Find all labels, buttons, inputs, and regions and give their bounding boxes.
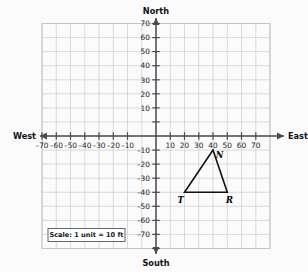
y-tick-label: 70 <box>141 19 151 28</box>
x-axis-negative-tick-labels: –70 –60 –50 –40 –30 –20 –10 <box>35 141 134 150</box>
x-tick-label: –10 <box>121 141 134 150</box>
y-tick-label: 60 <box>141 33 151 42</box>
y-tick-label: –40 <box>137 188 150 197</box>
y-tick-label: 20 <box>141 90 151 99</box>
y-tick-label: 30 <box>141 76 151 85</box>
y-tick-label: –10 <box>137 146 150 155</box>
y-tick-label: –20 <box>137 160 150 169</box>
west-label: West <box>13 131 36 141</box>
coordinate-plane-svg: –70 –60 –50 –40 –30 –20 –10 10 20 30 40 … <box>0 0 308 272</box>
y-tick-label: –70 <box>137 230 150 239</box>
y-tick-label: 10 <box>141 104 151 113</box>
coordinate-plane-figure: –70 –60 –50 –40 –30 –20 –10 10 20 30 40 … <box>0 0 308 272</box>
y-tick-label: –50 <box>137 202 150 211</box>
scale-note-text: Scale: 1 unit = 10 ft <box>49 231 123 239</box>
y-tick-label: 40 <box>141 61 151 70</box>
x-tick-label: 60 <box>237 141 247 150</box>
south-label: South <box>142 258 169 268</box>
y-tick-label: 50 <box>141 47 151 56</box>
x-tick-label: 10 <box>166 141 176 150</box>
y-tick-label: –30 <box>137 174 150 183</box>
x-tick-label: 40 <box>208 141 218 150</box>
scale-note: Scale: 1 unit = 10 ft <box>48 229 125 242</box>
x-tick-label: 70 <box>251 141 261 150</box>
y-tick-label: –60 <box>137 216 150 225</box>
x-tick-label: –30 <box>92 141 105 150</box>
x-tick-label: 30 <box>194 141 204 150</box>
x-tick-label: –50 <box>64 141 77 150</box>
east-label: East <box>288 131 308 141</box>
vertex-label-T: T <box>177 195 184 205</box>
x-tick-label: –70 <box>35 141 48 150</box>
x-tick-label: 50 <box>223 141 233 150</box>
x-tick-label: –60 <box>50 141 63 150</box>
x-tick-label: 20 <box>180 141 190 150</box>
x-tick-label: –20 <box>107 141 120 150</box>
vertex-label-N: N <box>215 150 224 160</box>
north-label: North <box>143 6 169 16</box>
x-tick-label: –40 <box>78 141 91 150</box>
vertex-label-R: R <box>225 195 233 205</box>
